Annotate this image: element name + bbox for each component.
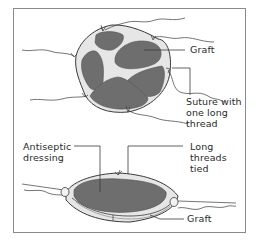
label-graft-top: Graft [190, 44, 215, 55]
label-suture: Suture with one long thread [186, 96, 242, 129]
label-antiseptic-dressing: Antiseptic dressing [23, 141, 71, 163]
label-graft-bottom: Graft [187, 213, 212, 224]
label-long-threads-tied: Long threads tied [190, 141, 227, 174]
